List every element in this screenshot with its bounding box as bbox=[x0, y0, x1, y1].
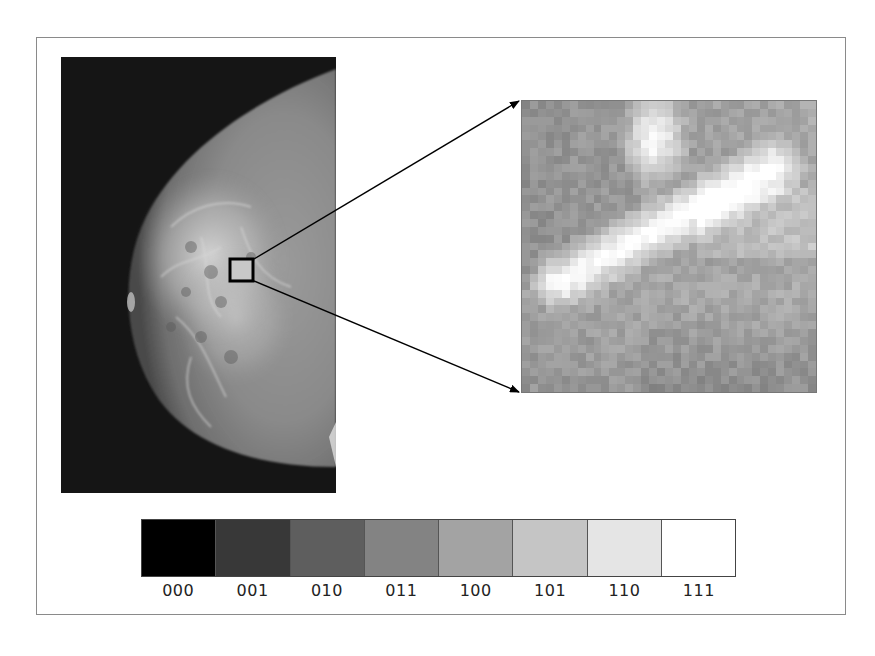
pixel-cell bbox=[609, 305, 617, 313]
pixel-cell bbox=[768, 345, 776, 353]
pixel-cell bbox=[609, 290, 617, 298]
pixel-cell bbox=[784, 243, 792, 251]
pixel-cell bbox=[673, 132, 681, 140]
pixel-cell bbox=[649, 368, 657, 376]
pixel-cell bbox=[538, 313, 546, 321]
pixel-cell bbox=[808, 188, 816, 196]
pixel-cell bbox=[681, 282, 689, 290]
pixel-cell bbox=[657, 384, 665, 392]
pixel-cell bbox=[744, 164, 752, 172]
pixel-cell bbox=[760, 148, 768, 156]
pixel-cell bbox=[729, 140, 737, 148]
pixel-cell bbox=[641, 243, 649, 251]
pixel-cell bbox=[673, 125, 681, 133]
pixel-cell bbox=[744, 384, 752, 392]
pixel-cell bbox=[768, 368, 776, 376]
pixel-cell bbox=[760, 258, 768, 266]
pixel-cell bbox=[689, 211, 697, 219]
pixel-cell bbox=[673, 188, 681, 196]
pixel-cell bbox=[792, 337, 800, 345]
pixel-cell bbox=[681, 195, 689, 203]
pixel-cell bbox=[760, 282, 768, 290]
pixel-cell bbox=[562, 188, 570, 196]
pixel-cell bbox=[641, 290, 649, 298]
pixel-cell bbox=[792, 195, 800, 203]
pixel-cell bbox=[737, 109, 745, 117]
pixel-cell bbox=[792, 203, 800, 211]
pixel-cell bbox=[570, 337, 578, 345]
pixel-cell bbox=[633, 290, 641, 298]
pixel-cell bbox=[594, 211, 602, 219]
pixel-cell bbox=[744, 203, 752, 211]
pixel-cell bbox=[617, 345, 625, 353]
pixel-cell bbox=[800, 337, 808, 345]
pixel-cell bbox=[784, 219, 792, 227]
pixel-cell bbox=[530, 345, 538, 353]
pixel-cell bbox=[665, 140, 673, 148]
pixel-cell bbox=[601, 250, 609, 258]
pixel-cell bbox=[800, 203, 808, 211]
pixel-cell bbox=[697, 250, 705, 258]
pixel-cell bbox=[729, 329, 737, 337]
pixel-cell bbox=[776, 156, 784, 164]
pixel-cell bbox=[784, 164, 792, 172]
pixel-cell bbox=[673, 313, 681, 321]
pixel-cell bbox=[641, 250, 649, 258]
pixel-cell bbox=[538, 258, 546, 266]
pixel-cell bbox=[562, 140, 570, 148]
pixel-cell bbox=[657, 274, 665, 282]
pixel-cell bbox=[586, 140, 594, 148]
pixel-cell bbox=[649, 109, 657, 117]
gray-swatch-000 bbox=[142, 520, 216, 576]
pixel-cell bbox=[784, 188, 792, 196]
pixel-cell bbox=[673, 337, 681, 345]
pixel-cell bbox=[522, 188, 530, 196]
pixel-cell bbox=[586, 258, 594, 266]
pixel-cell bbox=[681, 368, 689, 376]
pixel-cell bbox=[657, 282, 665, 290]
pixel-cell bbox=[578, 172, 586, 180]
pixel-cell bbox=[601, 384, 609, 392]
pixel-cell bbox=[752, 368, 760, 376]
pixel-cell bbox=[570, 313, 578, 321]
pixel-cell bbox=[522, 305, 530, 313]
pixel-cell bbox=[649, 282, 657, 290]
pixel-cell bbox=[657, 125, 665, 133]
pixel-cell bbox=[586, 361, 594, 369]
pixel-cell bbox=[649, 140, 657, 148]
pixel-cell bbox=[649, 298, 657, 306]
pixel-cell bbox=[776, 266, 784, 274]
pixel-cell bbox=[522, 148, 530, 156]
pixel-cell bbox=[538, 266, 546, 274]
pixel-cell bbox=[784, 125, 792, 133]
pixel-cell bbox=[578, 298, 586, 306]
pixel-cell bbox=[546, 329, 554, 337]
pixel-cell bbox=[538, 140, 546, 148]
pixel-cell bbox=[737, 337, 745, 345]
pixel-cell bbox=[737, 180, 745, 188]
pixel-cell bbox=[657, 180, 665, 188]
pixel-cell bbox=[721, 250, 729, 258]
pixel-cell bbox=[546, 156, 554, 164]
pixel-cell bbox=[737, 361, 745, 369]
pixel-cell bbox=[538, 109, 546, 117]
pixel-cell bbox=[705, 211, 713, 219]
pixel-cell bbox=[578, 337, 586, 345]
pixel-cell bbox=[530, 109, 538, 117]
pixel-cell bbox=[768, 180, 776, 188]
pixel-cell bbox=[586, 243, 594, 251]
pixel-cell bbox=[681, 361, 689, 369]
pixel-cell bbox=[673, 376, 681, 384]
pixel-cell bbox=[641, 219, 649, 227]
pixel-cell bbox=[657, 250, 665, 258]
pixel-cell bbox=[594, 117, 602, 125]
pixel-cell bbox=[776, 337, 784, 345]
pixel-cell bbox=[697, 101, 705, 109]
pixel-cell bbox=[776, 243, 784, 251]
pixel-cell bbox=[792, 164, 800, 172]
pixel-cell bbox=[673, 384, 681, 392]
pixel-cell bbox=[609, 274, 617, 282]
pixel-cell bbox=[673, 180, 681, 188]
pixel-cell bbox=[657, 203, 665, 211]
pixel-cell bbox=[689, 337, 697, 345]
